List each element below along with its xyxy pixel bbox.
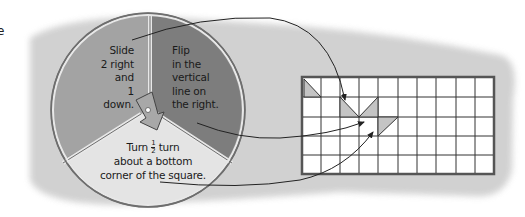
slide-line-3: and bbox=[96, 71, 134, 85]
turn-line-1: Turn 1 2 turn bbox=[98, 140, 208, 155]
slide-line-4: 1 down. bbox=[96, 85, 134, 112]
flip-line-3: vertical bbox=[172, 71, 219, 85]
fraction-one-half: 1 2 bbox=[151, 140, 155, 155]
transformation-diagram: e Slide 2 right and 1 down. Flip in the … bbox=[0, 0, 525, 217]
flip-line-5: the right. bbox=[172, 98, 219, 112]
turn-line-2: about a bottom bbox=[98, 155, 208, 169]
coordinate-grid bbox=[302, 77, 494, 174]
flip-line-1: Flip bbox=[172, 44, 219, 58]
slide-line-2: 2 right bbox=[96, 58, 134, 72]
label-slide: Slide 2 right and 1 down. bbox=[96, 44, 134, 112]
label-turn: Turn 1 2 turn about a bottom corner of t… bbox=[98, 140, 208, 182]
flip-line-2: in the bbox=[172, 58, 219, 72]
flip-line-4: line on bbox=[172, 85, 219, 99]
diagram-canvas bbox=[0, 0, 525, 217]
slide-line-1: Slide bbox=[96, 44, 134, 58]
label-flip: Flip in the vertical line on the right. bbox=[172, 44, 219, 112]
turn-line-3: corner of the square. bbox=[98, 169, 208, 183]
edge-text-fragment: e bbox=[0, 24, 4, 38]
